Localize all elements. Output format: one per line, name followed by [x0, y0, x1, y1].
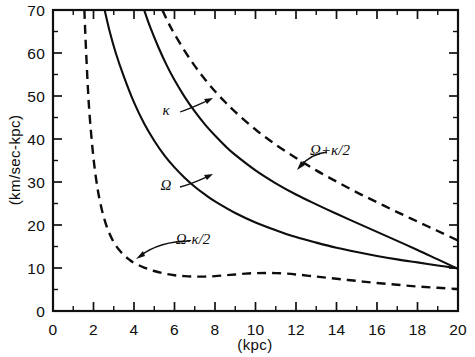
x-tick-label: 4 [130, 321, 139, 338]
y-tick-label: 20 [27, 217, 45, 234]
y-tick-label: 40 [27, 131, 45, 148]
kappa-label: κ [162, 102, 170, 118]
series-curve-omega [105, 10, 458, 268]
x-axis-title: (kpc) [237, 336, 272, 353]
omega-arrowhead [204, 174, 213, 180]
y-axis-title: (km/sec-kpc) [6, 115, 23, 206]
scientific-line-chart: 02468101214161820 010203040506070 κΩΩ-κ/… [0, 0, 475, 357]
omega-minus-label: Ω-κ/2 [176, 231, 211, 247]
y-tick-label: 10 [27, 260, 45, 277]
axis-box [53, 10, 458, 311]
x-axis-ticks [53, 10, 458, 311]
plot-frame [53, 10, 458, 311]
x-tick-label: 8 [211, 321, 220, 338]
y-tick-label: 30 [27, 174, 45, 191]
kappa-arrowhead [204, 98, 213, 104]
x-tick-label: 18 [409, 321, 427, 338]
omega-minus-arrowhead [136, 251, 145, 259]
data-series-group [84, 10, 458, 289]
y-tick-label: 0 [36, 303, 45, 320]
x-tick-label: 12 [287, 321, 305, 338]
x-tick-label: 6 [170, 321, 179, 338]
omega-label: Ω [161, 177, 172, 193]
y-axis-ticks [53, 10, 458, 311]
y-axis-tick-labels: 010203040506070 [27, 2, 45, 320]
x-tick-label: 16 [368, 321, 386, 338]
x-tick-label: 0 [49, 321, 58, 338]
x-tick-label: 2 [89, 321, 98, 338]
figure-container: 02468101214161820 010203040506070 κΩΩ-κ/… [0, 0, 475, 357]
y-tick-label: 50 [27, 88, 45, 105]
x-tick-label: 14 [328, 321, 346, 338]
omega-plus-label: Ω+κ/2 [310, 142, 350, 158]
series-curve-omega-minus-kappa-over-2 [84, 10, 458, 289]
x-tick-label: 20 [449, 321, 467, 338]
y-tick-label: 60 [27, 45, 45, 62]
y-tick-label: 70 [27, 2, 45, 19]
